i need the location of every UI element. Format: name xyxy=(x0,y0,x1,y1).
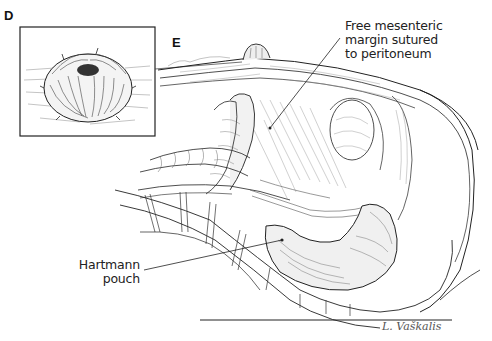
surgical-illustration: D E Free mesenteric margin sutured to pe… xyxy=(0,0,492,341)
label-line: margin sutured xyxy=(345,33,443,47)
mesenteric-leader-line xyxy=(270,38,340,128)
label-line: Free mesenteric xyxy=(345,19,443,33)
label-free-mesenteric-margin: Free mesenteric margin sutured to perito… xyxy=(345,19,443,61)
abdominal-section-drawing xyxy=(115,44,480,328)
inset-stoma-drawing xyxy=(20,27,155,136)
artist-signature: L. Vaškalis xyxy=(382,320,441,333)
label-line: Hartmann xyxy=(74,258,140,272)
panel-label-e: E xyxy=(172,35,181,50)
label-hartmann-pouch: Hartmann pouch xyxy=(74,258,140,286)
label-line: to peritoneum xyxy=(345,47,443,61)
panel-label-d: D xyxy=(4,8,13,23)
label-line: pouch xyxy=(74,272,140,286)
hartmann-leader-line xyxy=(144,240,282,270)
